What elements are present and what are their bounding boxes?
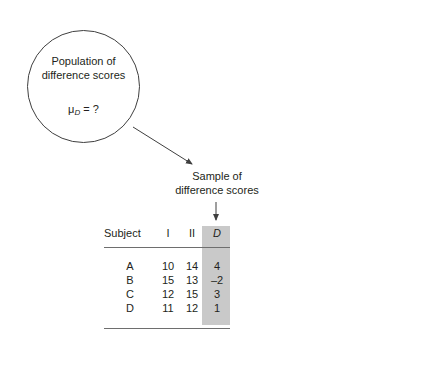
mu-value: = ?: [80, 103, 99, 115]
population-label-line1: Population of: [27, 54, 140, 68]
table-row: C 12 15 3: [104, 287, 230, 301]
table-header: Subject I II D: [104, 226, 230, 247]
cell-ii: 15: [180, 287, 204, 301]
sample-caption: Sample of difference scores: [142, 169, 292, 197]
difference-scores-table: Subject I II D A 10 14 4 B 15 13 –2: [104, 226, 230, 329]
population-label-line2: difference scores: [27, 68, 140, 82]
population-parameter: μD = ?: [27, 103, 140, 117]
header-row: Subject I II D: [104, 226, 230, 247]
table-body: A 10 14 4 B 15 13 –2 C 12 15 3: [104, 247, 230, 315]
header-d: D: [204, 226, 230, 247]
header-ii: II: [180, 226, 204, 247]
cell-ii: 12: [180, 301, 204, 315]
table-row: D 11 12 1: [104, 301, 230, 315]
population-label: Population of difference scores: [27, 54, 140, 82]
population-circle: [27, 30, 140, 143]
cell-subject: D: [104, 301, 156, 315]
header-subject: Subject: [104, 226, 156, 247]
cell-d: 1: [204, 301, 230, 315]
sample-caption-line2: difference scores: [142, 183, 292, 197]
cell-i: 11: [156, 301, 180, 315]
sample-caption-line1: Sample of: [142, 169, 292, 183]
cell-d: 4: [204, 247, 230, 273]
cell-subject: B: [104, 273, 156, 287]
figure-canvas: Population of difference scores μD = ? S…: [0, 0, 443, 367]
cell-d: –2: [204, 273, 230, 287]
cell-d: 3: [204, 287, 230, 301]
scores-table: Subject I II D A 10 14 4 B 15 13 –2: [104, 226, 230, 315]
cell-ii: 14: [180, 247, 204, 273]
cell-i: 15: [156, 273, 180, 287]
cell-subject: C: [104, 287, 156, 301]
cell-ii: 13: [180, 273, 204, 287]
cell-i: 10: [156, 247, 180, 273]
cell-i: 12: [156, 287, 180, 301]
table-row: A 10 14 4: [104, 247, 230, 273]
table-bottom-rule: [104, 328, 230, 329]
header-i: I: [156, 226, 180, 247]
table-row: B 15 13 –2: [104, 273, 230, 287]
cell-subject: A: [104, 247, 156, 273]
